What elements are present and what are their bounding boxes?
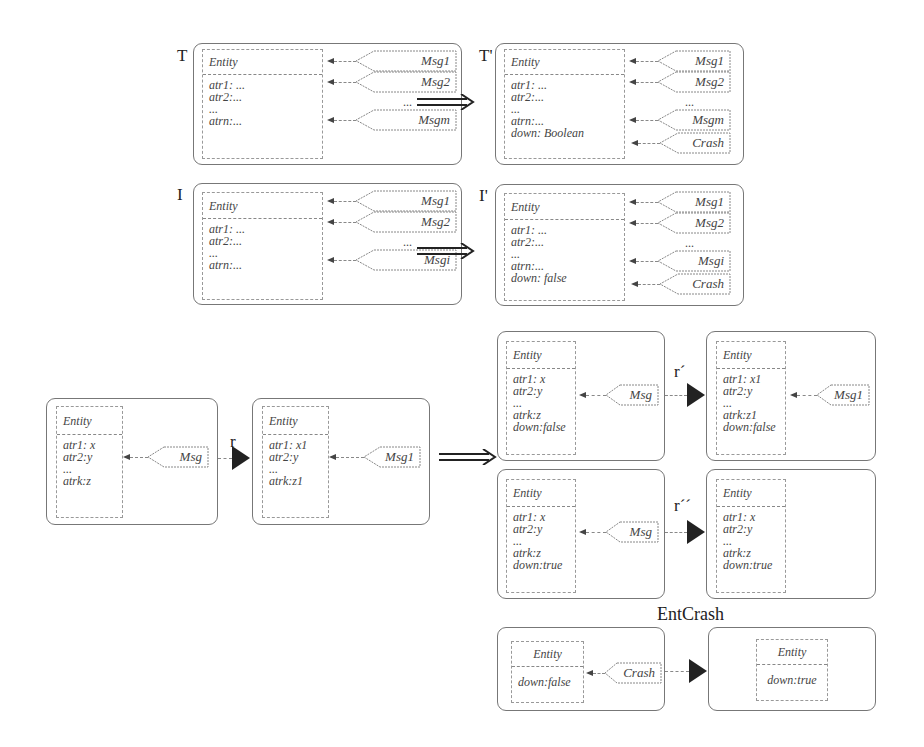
message-connector [334,82,356,84]
message-label: Crash [623,665,655,681]
entity-attributes: atr1: ... atr2:... ... atrn:... [203,75,322,131]
instance-i-prime-label: I' [479,186,488,206]
message-msg1: Msg1 [356,191,456,211]
attribute: atr2:... [209,235,316,247]
entity-attributes: atr1: ... atr2:... ... atrn:... [203,219,322,275]
message-msg: Msg [606,522,658,542]
attribute: down: Boolean [511,127,618,139]
attribute: atr2:... [209,91,316,103]
rule-r-double-prime-rhs-frame: Entity atr1: x atr2:y ... atrk:z down:tr… [706,469,876,599]
entity-attributes: atr1: x atr2:y ... atrk:z down:true [717,507,785,575]
message-msg2: Msg2 [658,213,730,233]
entity-attributes: atr1: x1 atr2:y ... atrk:z1 down:false [717,369,785,437]
entity-name: Entity [203,50,322,75]
message-msg1: Msg1 [364,447,420,467]
rule-r-prime-lhs-frame: Entity atr1: x atr2:y ... atrk:z down:fa… [497,331,665,461]
attribute: atrk:z1 [269,475,322,487]
rule-r-prime-rhs-frame: Entity atr1: x1 atr2:y ... atrk:z1 down:… [706,331,876,461]
message-connector [636,202,658,204]
message-msg2: Msg2 [658,72,730,92]
arrowhead-icon [629,199,636,205]
attribute: down: false [511,272,618,284]
entity-class: Entity atr1: ... atr2:... ... atrn:... [202,49,323,159]
arrowhead-icon [579,529,586,535]
message-connector [334,61,356,63]
message-label: Crash [692,135,724,151]
message-connector [334,120,356,122]
arrowhead-icon [629,117,636,123]
message-msg: Msg [606,385,658,405]
arrowhead-icon [629,79,636,85]
message-connector [638,284,660,286]
entity-attributes: atr1: x atr2:y ... atrk:z down:true [507,507,575,575]
message-label: Msg1 [695,194,724,210]
message-connector [797,395,817,397]
arrowhead-icon [123,454,130,460]
rule-r-prime-label: r´ [674,362,685,382]
entity-attributes: atr1: x1 atr2:y ... atrk:z1 [263,435,328,491]
message-connector [636,120,658,122]
entity-class: Entity atr1: x atr2:y ... atrk:z down:tr… [716,479,786,593]
entity-name: Entity [717,342,785,369]
entity-attributes: atr1: ... atr2:... ... atrn:... down: Bo… [505,75,624,143]
message-connector [636,61,658,63]
entity-name: Entity [263,407,328,435]
message-connector [130,457,148,459]
message-label: Msg2 [695,74,724,90]
message-ellipsis: ... [685,95,694,110]
attribute: atr2:... [511,236,618,248]
entity-name: Entity [717,480,785,507]
rule-arrow-icon [687,383,705,407]
message-msg: Msg [148,447,208,467]
rule-connector [665,395,687,397]
rule-connector [218,458,232,460]
entity-class: Entity atr1: x1 atr2:y ... atrk:z1 down:… [716,341,786,455]
entity-class: Entity atr1: x atr2:y ... atrk:z down:fa… [506,341,576,455]
message-msg1: Msg1 [817,385,869,405]
message-msg1: Msg1 [658,192,730,212]
message-msg2: Msg2 [356,72,456,92]
entity-name: Entity [203,193,322,219]
rule-connector [665,532,687,534]
rule-arrow-icon [687,520,705,544]
entity-class: Entity atr1: ... atr2:... ... atrn:... d… [504,49,625,159]
entity-class: Entity atr1: x atr2:y ... atrk:z down:tr… [506,479,576,593]
rule-r-rhs-frame: Entity atr1: x1 atr2:y ... atrk:z1 Msg1 [252,398,430,525]
entity-name: Entity [505,194,624,220]
type-t-label: T [177,46,187,66]
arrowhead-icon [790,392,797,398]
attribute: down:false [723,421,779,433]
message-connector [586,532,606,534]
message-label: Crash [692,276,724,292]
rule-r-lhs-frame: Entity atr1: x atr2:y ... atrk:z Msg [46,398,218,525]
entity-attributes: atr1: ... atr2:... ... atrn:... down: fa… [505,220,624,288]
message-label: Msg2 [695,215,724,231]
attribute: down:true [513,559,569,571]
instance-i-prime-frame: Entity atr1: ... atr2:... ... atrn:... d… [495,184,744,306]
arrowhead-icon [327,257,334,263]
message-label: Msg [180,449,202,465]
arrowhead-icon [327,219,334,225]
message-label: Msg2 [421,74,450,90]
entity-class: Entity down:true [756,639,828,701]
entcrash-rhs-frame: Entity down:true [708,627,876,711]
instance-i-label: I [177,185,183,205]
entity-name: Entity [505,50,624,75]
message-label: Msg1 [834,387,863,403]
message-msg1: Msg1 [658,51,730,71]
attribute: atrn:... [209,115,316,127]
entity-name: Entity [57,407,122,435]
implies-arrow-icon [439,449,497,465]
message-msg1: Msg1 [356,51,456,71]
entity-class: Entity down:false [511,641,584,703]
message-crash: Crash [660,274,730,294]
implies-arrow-icon [417,243,475,259]
arrowhead-icon [579,392,586,398]
entity-name: Entity [757,640,827,665]
rule-r-label: r [230,432,236,452]
message-label: Msg [630,387,652,403]
arrowhead-icon [327,117,334,123]
attribute: atrk:z [63,475,116,487]
arrowhead-icon [629,258,636,264]
entcrash-lhs-frame: Entity down:false Crash [497,627,665,711]
